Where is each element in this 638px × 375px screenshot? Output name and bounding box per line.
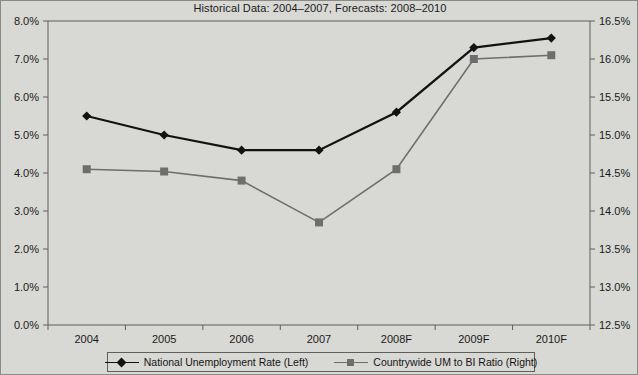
- svg-text:13.5%: 13.5%: [599, 243, 630, 255]
- plot-frame: [48, 21, 590, 325]
- svg-text:2009F: 2009F: [458, 333, 489, 345]
- x-axis: 20042005200620072008F2009F2010F: [48, 325, 590, 345]
- data-point-square: [470, 55, 478, 63]
- svg-text:2007: 2007: [307, 333, 331, 345]
- svg-text:2.0%: 2.0%: [14, 243, 39, 255]
- svg-text:4.0%: 4.0%: [14, 167, 39, 179]
- svg-text:6.0%: 6.0%: [14, 91, 39, 103]
- svg-text:8.0%: 8.0%: [14, 15, 39, 27]
- chart-legend: National Unemployment Rate (Left) Countr…: [107, 352, 535, 372]
- svg-text:14.5%: 14.5%: [599, 167, 630, 179]
- data-point-square: [238, 177, 246, 185]
- svg-text:1.0%: 1.0%: [14, 281, 39, 293]
- chart-container: Historical Data: 2004–2007, Forecasts: 2…: [0, 0, 638, 375]
- data-point-diamond: [82, 111, 91, 120]
- left-axis: 0.0%1.0%2.0%3.0%4.0%5.0%6.0%7.0%8.0%: [14, 15, 48, 331]
- data-point-square: [392, 165, 400, 173]
- data-point-square: [160, 167, 168, 175]
- data-point-diamond: [160, 130, 169, 139]
- legend-label-1: Countrywide UM to BI Ratio (Right): [373, 356, 537, 368]
- svg-text:15.5%: 15.5%: [599, 91, 630, 103]
- svg-text:16.0%: 16.0%: [599, 53, 630, 65]
- legend-item-national-unemployment-rate: National Unemployment Rate (Left): [105, 356, 309, 368]
- svg-text:5.0%: 5.0%: [14, 129, 39, 141]
- svg-text:12.5%: 12.5%: [599, 319, 630, 331]
- legend-label-0: National Unemployment Rate (Left): [144, 356, 309, 368]
- data-point-square: [315, 218, 323, 226]
- svg-text:3.0%: 3.0%: [14, 205, 39, 217]
- svg-text:2004: 2004: [74, 333, 98, 345]
- square-marker-icon: [334, 357, 368, 368]
- data-series-group: [82, 34, 556, 227]
- right-axis: 12.5%13.0%13.5%14.0%14.5%15.0%15.5%16.0%…: [590, 15, 630, 331]
- series-um-bi-ratio: [83, 51, 556, 226]
- data-point-diamond: [237, 146, 246, 155]
- svg-text:13.0%: 13.0%: [599, 281, 630, 293]
- chart-plot-area: 0.0%1.0%2.0%3.0%4.0%5.0%6.0%7.0%8.0% 12.…: [1, 1, 638, 375]
- svg-text:2010F: 2010F: [536, 333, 567, 345]
- diamond-marker-icon: [105, 357, 139, 368]
- data-point-square: [547, 51, 555, 59]
- svg-text:0.0%: 0.0%: [14, 319, 39, 331]
- svg-text:2008F: 2008F: [381, 333, 412, 345]
- svg-text:2005: 2005: [152, 333, 176, 345]
- series-unemployment: [82, 34, 556, 155]
- data-point-diamond: [314, 146, 323, 155]
- svg-text:16.5%: 16.5%: [599, 15, 630, 27]
- legend-item-countrywide-um-to-bi-ratio: Countrywide UM to BI Ratio (Right): [334, 356, 537, 368]
- svg-text:14.0%: 14.0%: [599, 205, 630, 217]
- svg-text:2006: 2006: [229, 333, 253, 345]
- data-point-diamond: [547, 34, 556, 43]
- svg-text:7.0%: 7.0%: [14, 53, 39, 65]
- svg-text:15.0%: 15.0%: [599, 129, 630, 141]
- data-point-square: [83, 165, 91, 173]
